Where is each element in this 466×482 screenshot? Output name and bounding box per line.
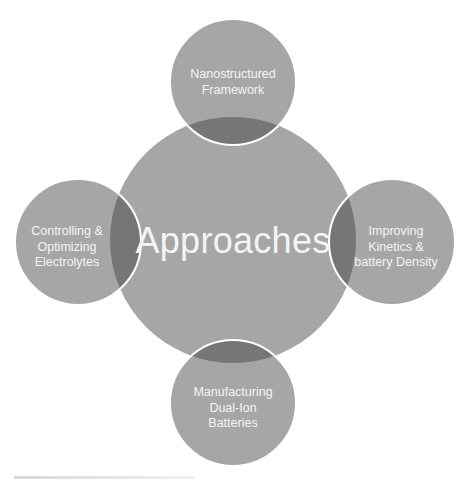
center-label: Approaches: [113, 218, 353, 263]
label-line: Electrolytes: [8, 255, 126, 271]
label-line: Nanostructured: [173, 67, 293, 83]
satellite-label-left: Controlling & Optimizing Electrolytes: [8, 224, 126, 271]
label-line: Kinetics &: [340, 240, 452, 256]
satellite-label-bottom: Manufacturing Dual-Ion Batteries: [173, 385, 293, 432]
label-line: Optimizing: [8, 240, 126, 256]
label-line: Dual-Ion: [173, 401, 293, 417]
satellite-label-top: Nanostructured Framework: [173, 67, 293, 98]
label-line: Manufacturing: [173, 385, 293, 401]
label-line: Controlling &: [8, 224, 126, 240]
label-line: Batteries: [173, 416, 293, 432]
label-line: battery Density: [340, 255, 452, 271]
label-line: Framework: [173, 83, 293, 99]
cropped-caption-strip: [14, 476, 194, 479]
satellite-label-right: Improving Kinetics & battery Density: [340, 224, 452, 271]
label-line: Improving: [340, 224, 452, 240]
